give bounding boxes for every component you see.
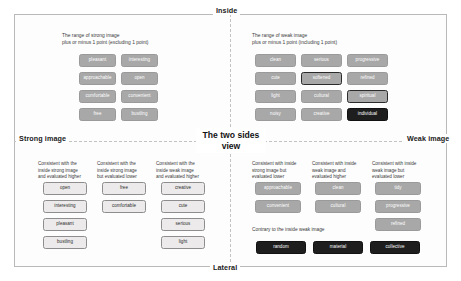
chip-bl-0-0[interactable]: open [43,182,87,195]
bottom-left-column-header-2: Consistent with the inside weak image an… [156,161,214,181]
chip-label: cultural [331,204,346,209]
chip-label: pleasant [56,222,73,227]
chip-label: approachable [84,76,112,81]
chip-label: progressive [386,204,410,209]
chip-bl-2-0[interactable]: creative [161,182,205,195]
chip-label: spiritual [360,94,376,99]
chip-br-0-0[interactable]: approachable [255,182,301,195]
chip-weak-range-9[interactable]: noisy [255,108,296,121]
bottom-right-column-header-2: Consistent with inside weak image but ev… [372,161,430,181]
pole-label-inside: Inside [213,6,240,15]
chip-bl-0-2[interactable]: pleasant [43,218,87,231]
chip-strong-range-0[interactable]: pleasant [79,54,116,67]
chip-weak-range-6[interactable]: light [255,90,296,103]
chip-weak-range-10[interactable]: creative [301,108,342,121]
chip-strong-range-1[interactable]: interesting [121,54,158,67]
chip-label: free [94,112,102,117]
chip-label: cultural [314,94,329,99]
chip-label: clean [332,186,343,191]
chip-label: convenient [267,204,289,209]
chip-strong-range-7[interactable]: bustling [121,108,158,121]
chip-label: serious [176,222,191,227]
chip-bl-2-2[interactable]: serious [161,218,205,231]
chip-label: individual [358,112,377,117]
chip-label: creative [313,112,329,117]
chip-label: progressive [356,58,380,63]
chip-label: open [60,186,70,191]
chip-br-1-1[interactable]: cultural [315,200,361,213]
chip-label: convenient [128,94,150,99]
chip-label: bustling [132,112,148,117]
chip-label: interesting [129,58,150,63]
chip-bl-2-1[interactable]: cute [161,200,205,213]
chip-label: comfortable [85,94,109,99]
chip-label: softened [313,76,331,81]
chip-label: noisy [270,112,281,117]
chip-weak-range-3[interactable]: cute [255,72,296,85]
chip-weak-range-8[interactable]: spiritual [347,90,388,103]
chip-bl-2-3[interactable]: light [161,236,205,249]
chip-label: light [271,94,280,99]
chip-label: light [179,240,188,245]
chip-contrary-0[interactable]: random [256,241,306,254]
chip-strong-range-2[interactable]: approachable [79,72,116,85]
chip-label: creative [175,186,191,191]
chip-weak-range-1[interactable]: serious [301,54,342,67]
chip-strong-range-3[interactable]: open [121,72,158,85]
diagram-canvas: Inside Lateral Strong image Weak image T… [0,0,461,281]
chip-label: approachable [264,186,292,191]
bottom-left-column-header-1: Consistent with the inside strong image … [97,161,155,181]
chip-strong-range-5[interactable]: convenient [121,90,158,103]
chip-contrary-2[interactable]: collective [370,241,420,254]
contrary-note: Contrary to the inside weak image [252,227,325,232]
chip-strong-range-4[interactable]: comfortable [79,90,116,103]
chip-weak-range-5[interactable]: refined [347,72,388,85]
pole-label-weak-image: Weak image [404,134,452,143]
pole-label-strong-image: Strong image [16,134,69,143]
chip-label: refined [391,222,405,227]
chip-label: collective [385,245,404,250]
chip-label: bustling [57,240,73,245]
bottom-right-column-header-0: Consistent with inside strong image but … [252,161,310,181]
chip-weak-range-2[interactable]: progressive [347,54,388,67]
pole-label-lateral: Lateral [210,263,240,272]
chip-label: refined [360,76,374,81]
bottom-right-column-header-1: Consistent with inside weak image and ev… [312,161,370,181]
chip-br-0-1[interactable]: convenient [255,200,301,213]
chip-weak-range-4[interactable]: softened [301,72,342,85]
chip-br-2-1[interactable]: progressive [375,200,421,213]
chip-label: comfortable [112,204,136,209]
chip-bl-1-1[interactable]: comfortable [102,200,146,213]
chip-label: cute [179,204,188,209]
chip-bl-0-3[interactable]: bustling [43,236,87,249]
chip-bl-0-1[interactable]: interesting [43,200,87,213]
chip-label: random [273,245,289,250]
chip-label: tidy [394,186,401,191]
chip-label: cute [271,76,280,81]
chip-br-1-0[interactable]: clean [315,182,361,195]
bottom-left-column-header-0: Consistent with the inside strong image … [38,161,96,181]
center-title: The two sides view [196,128,266,153]
chip-label: serious [314,58,329,63]
chip-label: pleasant [89,58,106,63]
chip-label: open [134,76,144,81]
chip-br-2-0[interactable]: tidy [375,182,421,195]
chip-weak-range-7[interactable]: cultural [301,90,342,103]
chip-br-2-2[interactable]: refined [375,218,421,231]
chip-weak-range-0[interactable]: clean [255,54,296,67]
chip-label: free [120,186,128,191]
chip-label: interesting [54,204,75,209]
chip-weak-range-11[interactable]: individual [347,108,388,121]
chip-strong-range-6[interactable]: free [79,108,116,121]
chip-label: material [330,245,346,250]
top-right-caption: The range of weak image plus or minus 1 … [252,33,337,47]
top-left-caption: The range of strong image plus or minus … [62,33,148,47]
chip-label: clean [270,58,281,63]
chip-bl-1-0[interactable]: free [102,182,146,195]
chip-contrary-1[interactable]: material [313,241,363,254]
